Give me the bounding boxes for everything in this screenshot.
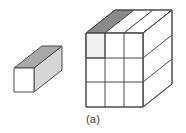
figure-container: (a) (0, 0, 186, 133)
large-cube (86, 10, 172, 107)
figure-caption: (a) (0, 113, 186, 126)
unit-block-front-face (14, 68, 34, 92)
large-cube-front-cell-r0-c0-highlight (86, 33, 105, 58)
